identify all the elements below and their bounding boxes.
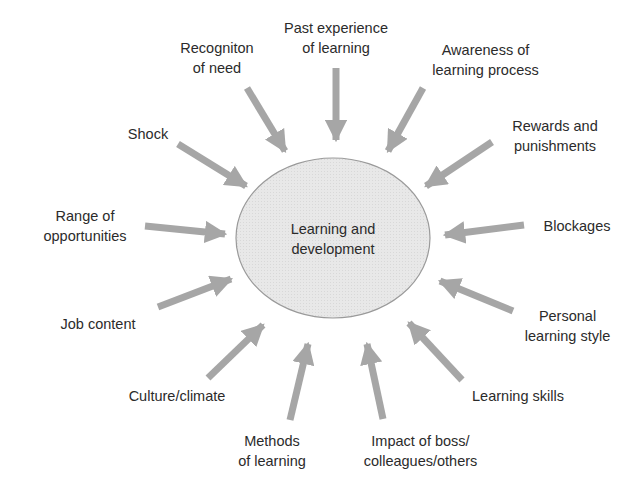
label-line: Blockages xyxy=(532,216,622,236)
arrow-job-content xyxy=(158,279,231,307)
arrow-shock xyxy=(178,144,246,186)
label-line: of learning xyxy=(222,451,322,471)
label-learning-skills: Learning skills xyxy=(458,386,578,406)
arrow-impact-boss xyxy=(367,344,383,419)
label-line: Rewards and xyxy=(500,116,610,136)
label-recognition: Recogniton of need xyxy=(167,38,267,78)
label-line: Methods xyxy=(222,431,322,451)
label-line: colleagues/others xyxy=(348,451,493,471)
label-line: Range of xyxy=(30,206,140,226)
label-impact-boss: Impact of boss/ colleagues/others xyxy=(348,431,493,471)
label-line: Awareness of xyxy=(418,40,553,60)
label-rewards: Rewards and punishments xyxy=(500,116,610,156)
label-line: Job content xyxy=(48,314,148,334)
label-line: Personal xyxy=(510,306,625,326)
center-label-line2: development xyxy=(263,239,403,259)
arrow-culture xyxy=(208,325,263,378)
arrow-awareness xyxy=(388,88,423,151)
arrow-personal-style xyxy=(440,281,513,311)
label-line: Culture/climate xyxy=(112,386,242,406)
arrow-range xyxy=(145,226,225,234)
label-line: punishments xyxy=(500,136,610,156)
label-past-experience: Past experience of learning xyxy=(276,18,396,58)
arrow-learning-skills xyxy=(409,323,462,380)
label-blockages: Blockages xyxy=(532,216,622,236)
label-personal-style: Personal learning style xyxy=(510,306,625,346)
label-methods: Methods of learning xyxy=(222,431,322,471)
label-line: Shock xyxy=(113,124,183,144)
label-line: learning process xyxy=(418,60,553,80)
label-line: Past experience xyxy=(276,18,396,38)
label-job-content: Job content xyxy=(48,314,148,334)
arrow-recognition xyxy=(247,88,285,151)
label-culture: Culture/climate xyxy=(112,386,242,406)
arrow-methods xyxy=(290,344,308,420)
label-shock: Shock xyxy=(113,124,183,144)
label-line: of need xyxy=(167,58,267,78)
arrow-blockages xyxy=(445,225,524,235)
label-line: Recogniton xyxy=(167,38,267,58)
label-line: opportunities xyxy=(30,226,140,246)
label-range: Range of opportunities xyxy=(30,206,140,246)
label-line: Impact of boss/ xyxy=(348,431,493,451)
label-line: learning style xyxy=(510,326,625,346)
label-line: of learning xyxy=(276,38,396,58)
center-label: Learning and development xyxy=(263,219,403,259)
arrow-rewards xyxy=(426,142,492,186)
label-line: Learning skills xyxy=(458,386,578,406)
label-awareness: Awareness of learning process xyxy=(418,40,553,80)
center-label-line1: Learning and xyxy=(263,219,403,239)
